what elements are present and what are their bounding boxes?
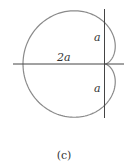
figure-caption: (c) <box>57 149 72 162</box>
cardioid-figure: 2a a a (c) <box>0 0 128 166</box>
label-a-lower: a <box>94 82 101 95</box>
label-a-upper: a <box>94 31 101 44</box>
label-2a: 2a <box>56 51 71 64</box>
